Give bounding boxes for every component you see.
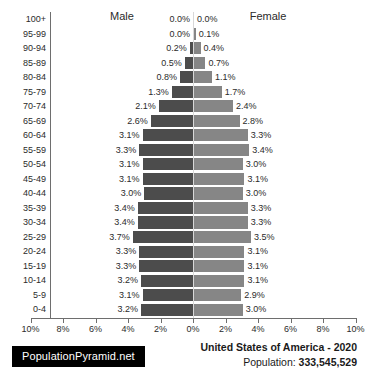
female-value-label: 3.3% bbox=[251, 128, 285, 143]
age-group-label: 35-39 bbox=[0, 201, 46, 216]
female-bar[interactable] bbox=[194, 158, 243, 170]
female-bar[interactable] bbox=[194, 86, 222, 98]
female-bar[interactable] bbox=[194, 129, 248, 141]
male-value-label: 3.0% bbox=[107, 186, 141, 201]
female-bar[interactable] bbox=[194, 187, 243, 199]
female-value-label: 3.1% bbox=[247, 244, 281, 259]
male-value-label: 2.1% bbox=[122, 99, 156, 114]
male-bar[interactable] bbox=[143, 158, 193, 170]
female-bar[interactable] bbox=[194, 100, 233, 112]
female-value-label: 2.4% bbox=[236, 99, 270, 114]
female-bar[interactable] bbox=[194, 275, 244, 287]
female-bar[interactable] bbox=[194, 289, 241, 301]
male-bar[interactable] bbox=[139, 260, 193, 272]
male-bar[interactable] bbox=[144, 187, 193, 199]
x-axis-tick bbox=[96, 318, 97, 323]
male-value-label: 0.0% bbox=[156, 12, 190, 27]
male-value-label: 0.8% bbox=[143, 70, 177, 85]
age-group-label: 30-34 bbox=[0, 215, 46, 230]
male-bar[interactable] bbox=[138, 216, 193, 228]
x-axis-tick-label: 0% bbox=[178, 324, 208, 334]
female-value-label: 2.9% bbox=[244, 288, 278, 303]
female-bar[interactable] bbox=[194, 115, 240, 127]
male-value-label: 3.1% bbox=[106, 128, 140, 143]
female-bar[interactable] bbox=[194, 216, 248, 228]
age-group-label: 10-14 bbox=[0, 273, 46, 288]
male-bar[interactable] bbox=[141, 304, 193, 316]
male-value-label: 0.5% bbox=[148, 56, 182, 71]
age-group-label: 15-19 bbox=[0, 259, 46, 274]
male-bar[interactable] bbox=[159, 100, 193, 112]
population-pyramid-chart: Male Female 100+0.0%0.0%95-990.0%0.1%90-… bbox=[0, 0, 367, 373]
population-value: 333,545,529 bbox=[299, 356, 357, 368]
age-group-label: 20-24 bbox=[0, 244, 46, 259]
female-bar[interactable] bbox=[194, 28, 196, 40]
male-value-label: 3.1% bbox=[106, 157, 140, 172]
x-axis-tick bbox=[63, 318, 64, 323]
pyramid-row: 30-343.4%3.3% bbox=[0, 215, 367, 230]
female-bar[interactable] bbox=[194, 202, 248, 214]
male-bar[interactable] bbox=[172, 86, 193, 98]
x-axis-tick bbox=[226, 318, 227, 323]
female-value-label: 3.4% bbox=[252, 143, 286, 158]
female-bar[interactable] bbox=[194, 57, 205, 69]
female-bar[interactable] bbox=[194, 231, 251, 243]
female-value-label: 3.1% bbox=[247, 273, 281, 288]
populationpyramid-logo[interactable]: PopulationPyramid.net bbox=[12, 346, 145, 367]
female-value-label: 3.3% bbox=[251, 215, 285, 230]
age-group-label: 70-74 bbox=[0, 99, 46, 114]
female-value-label: 1.1% bbox=[215, 70, 249, 85]
pyramid-row: 95-990.0%0.1% bbox=[0, 27, 367, 42]
female-value-label: 1.7% bbox=[225, 85, 259, 100]
male-value-label: 3.1% bbox=[106, 172, 140, 187]
female-bar[interactable] bbox=[194, 304, 243, 316]
pyramid-row: 90-940.2%0.4% bbox=[0, 41, 367, 56]
age-group-label: 25-29 bbox=[0, 230, 46, 245]
male-bar[interactable] bbox=[138, 202, 193, 214]
female-value-label: 3.0% bbox=[246, 302, 280, 317]
age-group-label: 50-54 bbox=[0, 157, 46, 172]
male-bar[interactable] bbox=[185, 57, 193, 69]
pyramid-row: 0-43.2%3.0% bbox=[0, 302, 367, 317]
male-bar[interactable] bbox=[139, 246, 193, 258]
female-value-label: 3.1% bbox=[247, 172, 281, 187]
male-value-label: 3.7% bbox=[96, 230, 130, 245]
male-value-label: 2.6% bbox=[114, 114, 148, 129]
x-axis-tick bbox=[258, 318, 259, 323]
female-bar[interactable] bbox=[194, 260, 244, 272]
female-bar[interactable] bbox=[194, 71, 212, 83]
population-label: Population: bbox=[243, 356, 298, 368]
male-value-label: 3.2% bbox=[104, 302, 138, 317]
x-axis-tick-label: 4% bbox=[113, 324, 143, 334]
x-axis-tick-label: 4% bbox=[243, 324, 273, 334]
x-axis-tick-label: 10% bbox=[341, 324, 367, 334]
female-bar[interactable] bbox=[194, 246, 244, 258]
female-bar[interactable] bbox=[194, 173, 244, 185]
male-value-label: 3.3% bbox=[102, 244, 136, 259]
male-bar[interactable] bbox=[139, 144, 193, 156]
pyramid-row: 100+0.0%0.0% bbox=[0, 12, 367, 27]
female-value-label: 0.0% bbox=[197, 12, 231, 27]
female-value-label: 3.5% bbox=[254, 230, 288, 245]
male-bar[interactable] bbox=[133, 231, 193, 243]
male-bar[interactable] bbox=[180, 71, 193, 83]
male-bar[interactable] bbox=[190, 42, 193, 54]
male-value-label: 3.4% bbox=[101, 201, 135, 216]
age-group-label: 40-44 bbox=[0, 186, 46, 201]
male-bar[interactable] bbox=[143, 129, 193, 141]
age-group-label: 85-89 bbox=[0, 56, 46, 71]
male-bar[interactable] bbox=[141, 275, 193, 287]
age-group-label: 55-59 bbox=[0, 143, 46, 158]
female-value-label: 2.8% bbox=[243, 114, 277, 129]
female-value-label: 3.3% bbox=[251, 201, 285, 216]
female-bar[interactable] bbox=[194, 42, 201, 54]
age-group-label: 80-84 bbox=[0, 70, 46, 85]
female-bar[interactable] bbox=[194, 144, 249, 156]
pyramid-row: 65-692.6%2.8% bbox=[0, 114, 367, 129]
male-value-label: 3.3% bbox=[102, 143, 136, 158]
male-value-label: 3.2% bbox=[104, 273, 138, 288]
male-bar[interactable] bbox=[143, 173, 193, 185]
male-bar[interactable] bbox=[143, 289, 193, 301]
male-bar[interactable] bbox=[151, 115, 193, 127]
female-value-label: 0.1% bbox=[199, 27, 233, 42]
